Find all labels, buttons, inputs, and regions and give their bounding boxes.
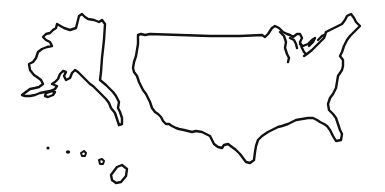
hawaii-island-oahu — [81, 151, 86, 156]
hawaii-island-kauai — [66, 150, 70, 153]
hawaii-island-big-island — [111, 165, 127, 183]
hawaii-island-maui — [99, 159, 104, 164]
alaska-outline — [22, 14, 122, 125]
contiguous-us-outline — [133, 14, 360, 163]
alaska-island-outline — [45, 91, 55, 97]
us-map-svg — [0, 0, 385, 192]
hawaii-island-niihau — [46, 146, 49, 149]
